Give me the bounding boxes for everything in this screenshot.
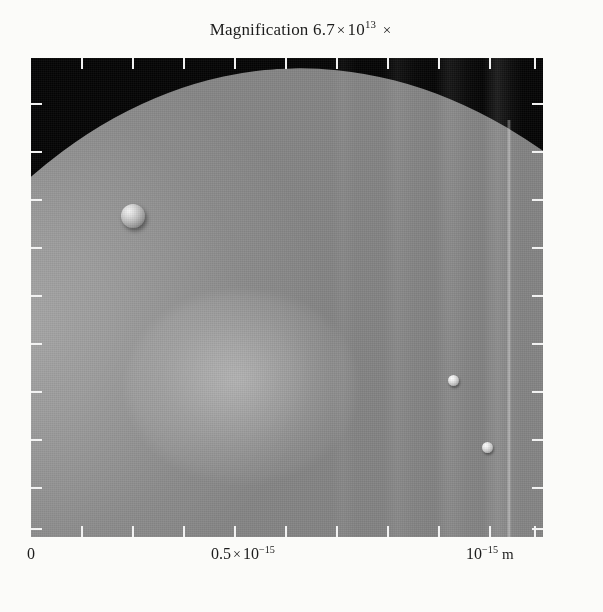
axis-half-value: 0.5 bbox=[211, 545, 231, 562]
tick-top-3 bbox=[183, 58, 185, 69]
vertical-bright-band bbox=[507, 120, 511, 537]
axis-unit: m bbox=[498, 546, 514, 562]
title-base: 10 bbox=[348, 20, 365, 39]
proton-sphere-small bbox=[482, 442, 493, 453]
tick-bottom-6 bbox=[336, 526, 338, 537]
multiplication-sign-icon: × bbox=[231, 547, 243, 562]
tick-top-6 bbox=[336, 58, 338, 69]
tick-top-4 bbox=[234, 58, 236, 69]
figure-title: Magnification 6.7×1013 × bbox=[0, 20, 603, 40]
title-prefix: Magnification bbox=[210, 20, 309, 39]
tick-right-2 bbox=[532, 151, 543, 153]
tick-top-8 bbox=[438, 58, 440, 69]
tick-top-7 bbox=[387, 58, 389, 69]
tick-left-9 bbox=[31, 487, 42, 489]
axis-half-base: 10 bbox=[243, 545, 259, 562]
proton-sphere-large bbox=[121, 204, 145, 228]
tick-left-4 bbox=[31, 247, 42, 249]
axis-label-one: 10−15m bbox=[466, 545, 514, 563]
nucleus-scale-image bbox=[31, 58, 543, 537]
axis-label-zero: 0 bbox=[27, 545, 35, 563]
tick-left-1 bbox=[31, 103, 42, 105]
axis-one-exponent: −15 bbox=[482, 544, 498, 555]
tick-top-2 bbox=[132, 58, 134, 69]
tick-bottom-7 bbox=[387, 526, 389, 537]
tick-top-9 bbox=[489, 58, 491, 69]
multiplication-sign-icon: × bbox=[335, 22, 348, 38]
tick-bottom-8 bbox=[438, 526, 440, 537]
tick-left-8 bbox=[31, 439, 42, 441]
axis-half-exponent: −15 bbox=[259, 544, 275, 555]
tick-bottom-4 bbox=[234, 526, 236, 537]
proton-sphere-mid bbox=[448, 375, 459, 386]
axis-label-half: 0.5×10−15 bbox=[211, 545, 275, 563]
tick-bottom-2 bbox=[132, 526, 134, 537]
tick-right-6 bbox=[532, 343, 543, 345]
magnification-times-icon: × bbox=[381, 22, 394, 38]
tick-right-8 bbox=[532, 439, 543, 441]
diffuse-nucleon-cloud bbox=[127, 292, 357, 482]
tick-bottom-9 bbox=[489, 526, 491, 537]
tick-right-3 bbox=[532, 199, 543, 201]
tick-right-4 bbox=[532, 247, 543, 249]
tick-bottom-1 bbox=[81, 526, 83, 537]
tick-right-9 bbox=[532, 487, 543, 489]
axis-one-base: 10 bbox=[466, 545, 482, 562]
tick-right-1 bbox=[532, 103, 543, 105]
tick-left-3 bbox=[31, 199, 42, 201]
axis-label-zero-text: 0 bbox=[27, 545, 35, 562]
tick-left-7 bbox=[31, 391, 42, 393]
tick-top-5 bbox=[285, 58, 287, 69]
tick-right-7 bbox=[532, 391, 543, 393]
tick-top-10 bbox=[534, 58, 536, 69]
tick-right-5 bbox=[532, 295, 543, 297]
tick-top-1 bbox=[81, 58, 83, 69]
tick-left-5 bbox=[31, 295, 42, 297]
title-exponent: 13 bbox=[365, 18, 376, 30]
tick-bottom-5 bbox=[285, 526, 287, 537]
tick-bottom-3 bbox=[183, 526, 185, 537]
tick-left-2 bbox=[31, 151, 42, 153]
tick-left-6 bbox=[31, 343, 42, 345]
tick-right-10 bbox=[532, 528, 543, 530]
tick-left-10 bbox=[31, 528, 42, 530]
title-value: 6.7 bbox=[313, 20, 335, 39]
